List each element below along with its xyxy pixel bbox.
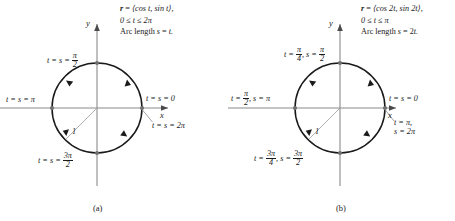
radius-segment-b	[308, 108, 340, 140]
label-b-left-t-den: 2	[243, 99, 249, 107]
panel-a-graphics	[0, 0, 227, 221]
equation-line-1-b: r = ⟨cos 2t, sin 2t⟩,	[361, 3, 423, 15]
equation-block-b: r = ⟨cos 2t, sin 2t⟩, 0 ≤ t ≤ π Arc leng…	[361, 3, 423, 38]
radius-label-a: 1	[72, 128, 76, 137]
label-b-right-start-value: 0	[414, 94, 418, 103]
equation-line-1-a: r = ⟨cos t, sin t⟩,	[120, 3, 174, 15]
label-a-right-start: t = s = 0	[146, 95, 175, 104]
label-b-top-sep: , s =	[302, 50, 319, 59]
label-a-right-end-prefix: t = s =	[152, 121, 177, 130]
y-axis-label-a: y	[86, 18, 90, 28]
label-b-right-end: t = π, s = 2π	[394, 119, 415, 136]
label-b-left: t = π2, s = π	[231, 90, 270, 107]
label-b-bottom-sep: , s =	[276, 154, 293, 163]
x-axis-label-b: x	[388, 110, 392, 120]
leader-line-a-2pi	[142, 110, 153, 123]
equation-domain-b: 0 ≤ t ≤ π	[361, 15, 423, 27]
label-b-left-t: t =	[231, 94, 243, 103]
equation-domain-a: 0 ≤ t ≤ 2π	[120, 15, 174, 27]
equation-arclength-b: Arc length s = 2t.	[361, 26, 423, 38]
y-axis-arrowhead-a	[94, 24, 100, 31]
direction-arrow-b-upper-left	[309, 81, 316, 87]
label-a-left-prefix: t = s =	[6, 95, 31, 104]
caption-a: (a)	[93, 203, 102, 213]
label-a-bottom: t = s = 3π2	[38, 152, 73, 169]
label-b-bottom-t-den: 4	[266, 159, 276, 167]
point-b-bottom	[338, 151, 342, 155]
label-a-right-start-prefix: t = s =	[146, 94, 171, 103]
vector-components-a: ⟨cos t, sin t⟩,	[132, 4, 174, 13]
radius-label-b: 1	[315, 128, 319, 137]
label-b-top-t-den: 4	[296, 55, 302, 63]
x-axis-label-a: x	[160, 110, 164, 120]
label-a-bottom-prefix: t = s =	[38, 156, 63, 165]
figure-container: r = ⟨cos t, sin t⟩, 0 ≤ t ≤ 2π Arc lengt…	[0, 0, 455, 221]
equation-block-a: r = ⟨cos t, sin t⟩, 0 ≤ t ≤ 2π Arc lengt…	[120, 3, 174, 38]
direction-arrow-a-lower-right	[120, 130, 127, 136]
label-b-right-end-line2: s = 2π	[394, 128, 415, 137]
direction-arrow-a-lower-left	[63, 129, 69, 136]
point-b-right	[383, 106, 387, 110]
point-b-top	[338, 61, 342, 65]
label-b-left-s: π	[266, 94, 270, 103]
label-b-top-s-den: 2	[319, 55, 325, 63]
direction-arrow-a-upper-left	[66, 81, 73, 87]
direction-arrow-a-upper-right	[125, 80, 131, 87]
panel-a: r = ⟨cos t, sin t⟩, 0 ≤ t ≤ 2π Arc lengt…	[0, 0, 227, 221]
label-b-bottom-s-den: 2	[293, 159, 303, 167]
label-a-top-den: 2	[72, 61, 78, 69]
vector-components-b: ⟨cos 2t, sin 2t⟩,	[373, 4, 423, 13]
label-b-right-start-prefix: t = s =	[389, 94, 414, 103]
label-b-bottom-t: t =	[254, 154, 266, 163]
point-a-top	[95, 61, 99, 65]
label-a-right-end-value: 2π	[177, 121, 185, 130]
point-a-left	[50, 106, 54, 110]
point-b-left	[293, 106, 297, 110]
label-a-right-end: t = s = 2π	[152, 122, 185, 131]
label-a-bottom-den: 2	[63, 161, 73, 169]
label-a-top: t = s = π2	[47, 52, 78, 69]
point-a-bottom	[95, 151, 99, 155]
label-b-bottom: t = 3π4, s = 3π2	[254, 150, 303, 167]
label-a-left: t = s = π	[6, 96, 35, 105]
y-axis-arrowhead-b	[337, 24, 343, 31]
equation-arclength-a: Arc length s = t.	[120, 26, 174, 38]
point-a-right	[140, 106, 144, 110]
y-axis-label-b: y	[329, 18, 333, 28]
direction-arrow-b-upper-right	[368, 80, 374, 87]
label-b-left-sep: , s =	[249, 94, 266, 103]
label-b-top: t = π4, s = π2	[284, 46, 325, 63]
label-a-left-value: π	[31, 95, 35, 104]
label-b-top-t: t =	[284, 50, 296, 59]
direction-arrow-b-lower-left	[306, 129, 312, 136]
direction-arrow-b-lower-right	[363, 130, 370, 136]
label-a-top-prefix: t = s =	[47, 56, 72, 65]
label-a-right-start-value: 0	[171, 94, 175, 103]
panel-b: r = ⟨cos 2t, sin 2t⟩, 0 ≤ t ≤ π Arc leng…	[228, 0, 455, 221]
radius-segment-a	[65, 108, 97, 140]
label-b-right-start: t = s = 0	[389, 95, 418, 104]
caption-b: (b)	[336, 203, 346, 213]
